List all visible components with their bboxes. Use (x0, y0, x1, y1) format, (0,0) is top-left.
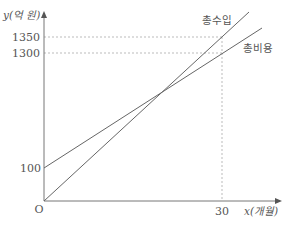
origin-label: O (34, 203, 43, 216)
tick-30: 30 (215, 205, 229, 218)
tick-1350: 1350 (12, 31, 40, 44)
revenue-line (44, 12, 249, 201)
cost-label: 총비용 (243, 42, 273, 54)
y-axis-arrow-icon (41, 11, 47, 18)
y-axis-label: y(억 원) (2, 9, 40, 21)
tick-1300: 1300 (12, 47, 40, 60)
tick-100: 100 (20, 162, 41, 175)
x-axis-label: x(개월) (244, 205, 278, 217)
chart: y(억 원) 1350 1300 100 O 30 x(개월) 총수입 총비용 (0, 0, 289, 227)
x-axis-arrow-icon (275, 198, 282, 204)
revenue-label: 총수입 (202, 14, 232, 26)
cost-line (44, 28, 262, 168)
